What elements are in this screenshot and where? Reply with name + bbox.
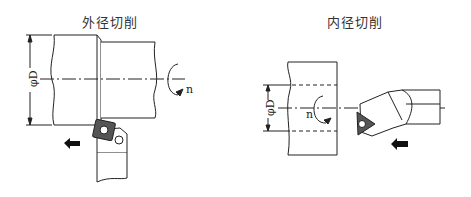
internal-turning-diagram (263, 62, 445, 155)
diameter-label-internal: φD (264, 99, 277, 116)
diagram-canvas: φD n φD n (0, 0, 471, 197)
external-turning-diagram (26, 35, 185, 182)
rotation-label-external: n (186, 83, 193, 96)
diameter-label-external: φD (27, 70, 40, 87)
rotation-label-internal: n (306, 108, 313, 121)
